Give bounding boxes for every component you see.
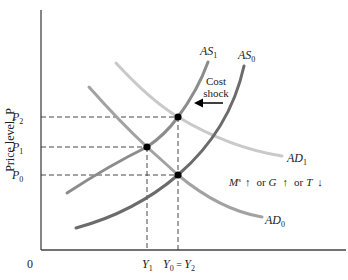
as1-label: AS1 xyxy=(199,44,217,60)
ad-as-chart: Price level, P P2 P1 P0 0 Y1 Y0 = Y2 AS1… xyxy=(0,0,348,280)
as1-curve xyxy=(67,62,208,193)
equilibrium-point-p2 xyxy=(174,113,181,120)
origin-label: 0 xyxy=(27,257,33,271)
equilibrium-point-p1 xyxy=(143,143,150,150)
ad0-label: AD0 xyxy=(264,213,285,229)
tick-p2: P2 xyxy=(11,110,23,126)
policy-annotation: Ms↑orG↑orT↓ xyxy=(228,176,323,188)
ad1-label: AD1 xyxy=(286,151,307,167)
up-arrow-icon: ↑ xyxy=(245,176,251,188)
as0-label: AS0 xyxy=(237,48,255,64)
equilibrium-point-p0 xyxy=(174,171,181,178)
down-arrow-icon: ↓ xyxy=(317,176,323,188)
up-arrow-icon: ↑ xyxy=(283,176,289,188)
tick-p0: P0 xyxy=(11,168,23,184)
ad0-curve xyxy=(89,87,262,217)
dashed-guides xyxy=(41,117,178,250)
left-arrow-icon xyxy=(194,99,223,108)
cost-shock-label-line2: shock xyxy=(203,87,229,99)
tick-y0-y2: Y0 = Y2 xyxy=(163,257,195,273)
tick-p1: P1 xyxy=(11,140,23,156)
tick-y1: Y1 xyxy=(142,257,153,273)
cost-shock-label-line1: Cost xyxy=(206,75,226,87)
